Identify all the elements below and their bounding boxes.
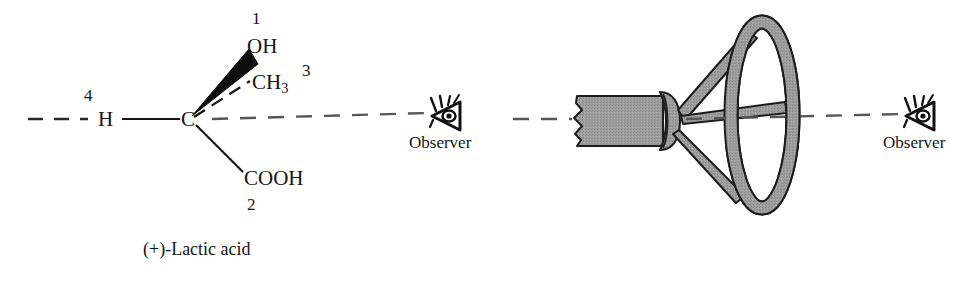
- atom-label-h: H: [98, 109, 113, 130]
- chirality-figure: 4 H C 1 OH CH3 3 COOH 2 Observer (+)-Lac…: [0, 0, 967, 290]
- group-label-oh: OH: [247, 36, 277, 57]
- steering-column: [574, 96, 663, 146]
- bond-c-cooh: [196, 125, 243, 172]
- lactic-acid-structure: [28, 49, 428, 172]
- eye-icon: [904, 95, 934, 130]
- observer-label-right: Observer: [883, 134, 945, 151]
- line-of-sight-left: [212, 113, 428, 119]
- priority-label-4: 4: [84, 87, 93, 104]
- figure-caption: (+)-Lactic acid: [143, 240, 251, 258]
- group-label-cooh: COOH: [244, 168, 304, 189]
- group-label-ch3-subscript: 3: [281, 80, 288, 96]
- priority-label-1: 1: [252, 10, 261, 27]
- observer-label-left: Observer: [409, 134, 471, 151]
- group-label-ch3-main: CH: [252, 70, 281, 94]
- steering-wheel-illustration: [513, 22, 902, 208]
- priority-label-3: 3: [302, 62, 311, 79]
- eye-icon: [430, 95, 460, 130]
- group-label-ch3: CH3: [252, 72, 288, 95]
- atom-label-c: C: [181, 109, 195, 130]
- priority-label-2: 2: [247, 196, 256, 213]
